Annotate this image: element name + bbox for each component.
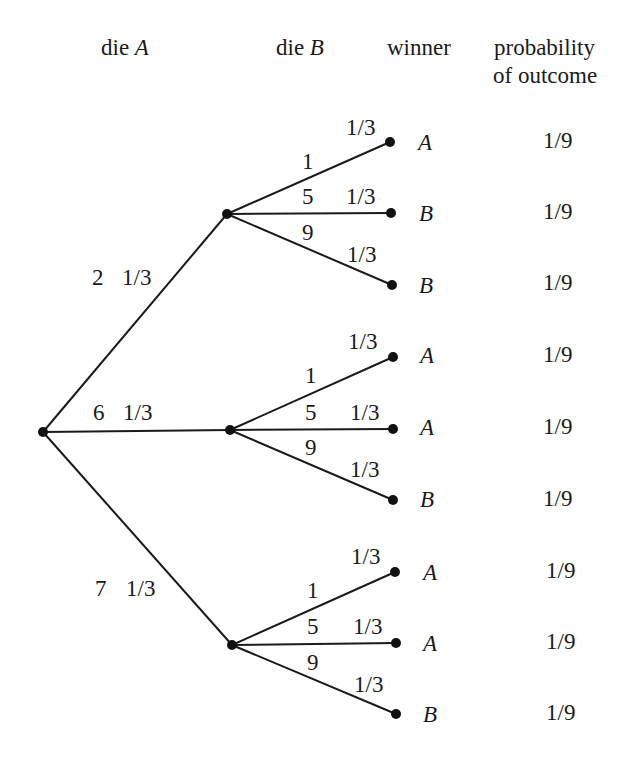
- branch-label-value: 6: [93, 400, 105, 425]
- winner-label: A: [418, 415, 435, 440]
- leaf-node: [390, 567, 400, 577]
- edge-root-to-die-a-7: [43, 432, 232, 645]
- leaf-node: [387, 280, 397, 290]
- leaf-node: [388, 352, 398, 362]
- outcome-probability: 1/9: [546, 700, 575, 725]
- branch-label-prob: 1/3: [346, 115, 375, 140]
- winner-label: B: [423, 702, 437, 727]
- branch-label-prob: 1/3: [346, 184, 375, 209]
- branch-label-prob: 1/3: [350, 400, 379, 425]
- branch-label-value: 1: [302, 149, 314, 174]
- header-winner: winner: [387, 35, 451, 60]
- leaf-node: [391, 638, 401, 648]
- branch-label-prob: 1/3: [351, 544, 380, 569]
- outcome-probability: 1/9: [543, 128, 572, 153]
- branch-label-value: 9: [305, 435, 317, 460]
- outcome-probability: 1/9: [543, 342, 572, 367]
- die-a-node: [227, 640, 237, 650]
- branch-label-value: 9: [307, 650, 319, 675]
- winner-label: B: [419, 273, 433, 298]
- branch-label-value: 5: [305, 400, 317, 425]
- winner-label: A: [418, 343, 435, 368]
- header-probability-line2: of outcome: [493, 63, 597, 88]
- branch-label-value: 1: [307, 578, 319, 603]
- leaf-node: [386, 208, 396, 218]
- outcome-probability: 1/9: [546, 558, 575, 583]
- edge-root-to-die-a-6: [43, 430, 230, 432]
- outcome-probability: 1/9: [543, 199, 572, 224]
- edge: [230, 429, 393, 430]
- leaf-node: [388, 424, 398, 434]
- header-probability-line1: probability: [494, 35, 595, 60]
- branch-label-value: 9: [302, 220, 314, 245]
- leaf-node: [385, 137, 395, 147]
- die-a-node: [222, 209, 232, 219]
- winner-label: B: [419, 201, 433, 226]
- edge: [232, 643, 396, 645]
- branch-label-prob: 1/3: [347, 242, 376, 267]
- winner-label: A: [421, 631, 438, 656]
- probability-tree-diagram: die A die B winner probability of outcom…: [0, 0, 638, 768]
- branch-label-prob: 1/3: [123, 400, 152, 425]
- edge: [227, 213, 391, 214]
- outcome-probability: 1/9: [546, 629, 575, 654]
- winner-label: B: [420, 487, 434, 512]
- outcome-probability: 1/9: [543, 486, 572, 511]
- branch-label-value: 7: [95, 576, 107, 601]
- die-a-node: [225, 425, 235, 435]
- branch-label-prob: 1/3: [348, 329, 377, 354]
- header-die-b: die B: [276, 35, 324, 60]
- winner-label: A: [416, 130, 433, 155]
- winner-label: A: [421, 560, 438, 585]
- outcome-probability: 1/9: [543, 270, 572, 295]
- branch-label-value: 1: [305, 363, 317, 388]
- branch-label-value: 5: [302, 184, 314, 209]
- branch-label-value: 5: [307, 614, 319, 639]
- branch-label-prob: 1/3: [126, 576, 155, 601]
- header-die-a: die A: [101, 35, 150, 60]
- branch-label-prob: 1/3: [353, 614, 382, 639]
- leaf-node: [391, 709, 401, 719]
- outcome-probability: 1/9: [543, 414, 572, 439]
- root-node: [38, 427, 48, 437]
- branch-label-prob: 1/3: [350, 457, 379, 482]
- branch-label-prob: 1/3: [122, 265, 151, 290]
- branch-label-prob: 1/3: [354, 672, 383, 697]
- branch-label-value: 2: [92, 265, 104, 290]
- leaf-node: [388, 495, 398, 505]
